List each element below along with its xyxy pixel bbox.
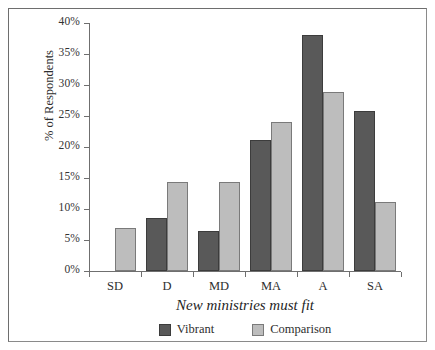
x-axis-category-label: MA (245, 279, 297, 294)
x-axis-tick-mark (245, 272, 246, 277)
x-axis-tick-mark (89, 272, 90, 277)
x-axis-title: New ministries must fit (89, 297, 401, 314)
x-axis-category-label: MD (193, 279, 245, 294)
y-axis-tick-label: 20% (59, 139, 80, 151)
x-axis-tick-mark (349, 272, 350, 277)
x-axis-category-label: A (297, 279, 349, 294)
bar-d-vibrant (146, 218, 167, 271)
legend-item-vibrant: Vibrant (159, 322, 214, 337)
x-axis-tick-mark (297, 272, 298, 277)
bar-sd-comparison (115, 228, 136, 271)
y-axis-title: % of Respondents (42, 26, 57, 166)
x-axis-category-label: SD (89, 279, 141, 294)
bar-a-vibrant (302, 35, 323, 271)
bars-layer (89, 23, 401, 271)
bar-sa-vibrant (354, 111, 375, 271)
y-axis-tick-label: 5% (64, 232, 80, 244)
y-axis-tick-label: 0% (64, 263, 80, 275)
bar-a-comparison (323, 92, 344, 271)
legend-label: Comparison (270, 322, 331, 337)
bar-ma-comparison (271, 122, 292, 271)
legend-swatch-vibrant (159, 324, 171, 336)
chart-legend: VibrantComparison (89, 322, 401, 337)
x-axis-tick-mark (141, 272, 142, 277)
y-axis-tick-label: 25% (59, 108, 80, 120)
x-axis-category-label: SA (349, 279, 401, 294)
bar-ma-vibrant (250, 140, 271, 271)
chart-figure: 0%5%10%15%20%25%30%35%40% SDDMDMAASA % o… (0, 0, 435, 350)
y-axis-tick-label: 40% (59, 15, 80, 27)
bar-sa-comparison (375, 202, 396, 271)
bar-md-comparison (219, 182, 240, 271)
bar-md-vibrant (198, 231, 219, 271)
y-axis-tick-label: 15% (59, 170, 80, 182)
legend-swatch-comparison (252, 324, 264, 336)
legend-label: Vibrant (177, 322, 214, 337)
y-axis-tick-label: 10% (59, 201, 80, 213)
legend-item-comparison: Comparison (252, 322, 331, 337)
y-axis-tick-label: 35% (59, 46, 80, 58)
bar-d-comparison (167, 182, 188, 271)
y-axis-tick-label: 30% (59, 77, 80, 89)
x-axis-category-label: D (141, 279, 193, 294)
x-axis-tick-mark (401, 272, 402, 277)
x-axis-tick-mark (193, 272, 194, 277)
